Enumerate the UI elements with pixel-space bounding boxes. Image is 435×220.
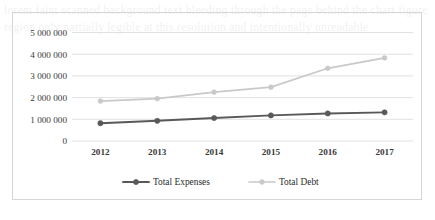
data-point-marker (98, 121, 103, 126)
data-point-marker (268, 113, 273, 118)
data-point-marker (212, 90, 217, 95)
legend-item-total-expenses: Total Expenses (123, 177, 210, 187)
y-axis-tick-label: 2 000 000 (30, 93, 67, 103)
data-point-marker (155, 118, 160, 123)
x-axis-tick-label: 2014 (205, 147, 224, 157)
line-chart: 01 000 0002 000 0003 000 0004 000 0005 0… (13, 13, 421, 199)
x-axis-tick-labels: 201220132014201520162017 (91, 147, 394, 157)
data-series-layer (98, 55, 387, 125)
data-point-marker (325, 111, 330, 116)
gridlines-group (72, 33, 413, 142)
x-axis-tick-label: 2015 (262, 147, 281, 157)
legend-label: Total Debt (279, 177, 319, 187)
series-total-debt (98, 55, 387, 103)
x-axis-tick-label: 2016 (319, 147, 338, 157)
data-point-marker (382, 55, 387, 60)
x-axis-tick-label: 2017 (375, 147, 394, 157)
y-axis-tick-label: 0 (62, 136, 67, 146)
chart-figure: 01 000 0002 000 0003 000 0004 000 0005 0… (12, 12, 422, 200)
x-axis-tick-label: 2012 (91, 147, 110, 157)
data-point-marker (269, 85, 274, 90)
legend-label: Total Expenses (153, 177, 210, 187)
legend-marker-swatch (260, 180, 265, 185)
data-point-marker (382, 110, 387, 115)
legend-item-total-debt: Total Debt (249, 177, 319, 187)
chart-legend: Total ExpensesTotal Debt (123, 177, 319, 187)
x-axis-tick-label: 2013 (148, 147, 167, 157)
data-point-marker (211, 115, 216, 120)
y-axis-tick-label: 3 000 000 (30, 71, 67, 81)
series-line (100, 58, 384, 101)
data-point-marker (155, 96, 160, 101)
y-axis-tick-label: 5 000 000 (30, 28, 67, 38)
y-axis-tick-labels: 01 000 0002 000 0003 000 0004 000 0005 0… (30, 28, 67, 147)
y-axis-tick-label: 1 000 000 (30, 115, 67, 125)
y-axis-tick-label: 4 000 000 (30, 50, 67, 60)
series-total-expenses (98, 110, 387, 126)
data-point-marker (325, 66, 330, 71)
series-line (100, 112, 384, 123)
data-point-marker (98, 99, 103, 104)
plot-area: 01 000 0002 000 0003 000 0004 000 0005 0… (13, 13, 421, 199)
legend-marker-swatch (133, 179, 138, 184)
